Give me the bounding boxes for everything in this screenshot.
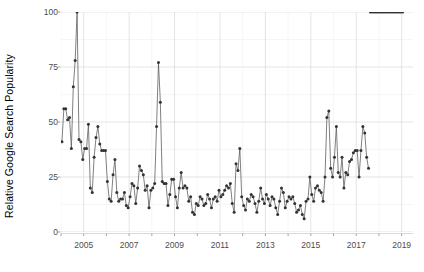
data-point xyxy=(324,176,327,179)
data-point xyxy=(282,191,285,194)
data-point xyxy=(70,147,73,150)
data-point xyxy=(197,204,200,207)
data-point xyxy=(113,158,116,161)
data-point xyxy=(346,173,349,176)
data-point xyxy=(79,140,82,143)
data-point xyxy=(272,198,275,201)
data-point xyxy=(312,200,315,203)
data-point xyxy=(257,200,260,203)
data-point xyxy=(165,182,168,185)
data-point xyxy=(235,162,238,165)
data-point xyxy=(140,169,143,172)
x-tick-label: 2017 xyxy=(347,241,366,250)
data-point xyxy=(127,206,130,209)
data-point xyxy=(87,123,90,126)
data-point xyxy=(308,176,311,179)
data-point xyxy=(189,195,192,198)
major-gridlines xyxy=(61,12,413,232)
data-point xyxy=(339,176,342,179)
data-point xyxy=(180,171,183,174)
data-point xyxy=(91,191,94,194)
x-tick-label: 2007 xyxy=(120,241,139,250)
x-tick-label: 2019 xyxy=(392,241,411,250)
data-point xyxy=(252,195,255,198)
data-point xyxy=(306,198,309,201)
data-point xyxy=(210,206,213,209)
data-point xyxy=(68,116,71,119)
data-point xyxy=(159,101,162,104)
data-point xyxy=(350,158,353,161)
chart-figure: Relative Google Search Popularity 025507… xyxy=(0,0,424,272)
series-line xyxy=(62,12,369,219)
data-point xyxy=(72,85,75,88)
data-point xyxy=(325,116,328,119)
data-point xyxy=(153,182,156,185)
line-chart-svg xyxy=(61,12,413,232)
data-point xyxy=(104,149,107,152)
data-point xyxy=(142,173,145,176)
data-point xyxy=(293,202,296,205)
data-point xyxy=(259,187,262,190)
data-point xyxy=(286,200,289,203)
data-point xyxy=(168,193,171,196)
data-point xyxy=(185,187,188,190)
data-point xyxy=(297,209,300,212)
data-point xyxy=(110,200,113,203)
data-point xyxy=(244,209,247,212)
data-point xyxy=(269,204,272,207)
data-point xyxy=(342,187,345,190)
data-point xyxy=(337,171,340,174)
data-point xyxy=(76,12,79,14)
data-point xyxy=(129,195,132,198)
data-point xyxy=(341,156,344,159)
data-point xyxy=(89,187,92,190)
data-point xyxy=(238,147,241,150)
data-point xyxy=(157,61,160,64)
data-point xyxy=(231,202,234,205)
data-point xyxy=(204,202,207,205)
data-point xyxy=(81,158,84,161)
data-point xyxy=(327,110,330,113)
data-point xyxy=(240,195,243,198)
data-point xyxy=(221,193,224,196)
data-point xyxy=(322,200,325,203)
data-point xyxy=(144,189,147,192)
data-point xyxy=(95,136,98,139)
data-point xyxy=(166,204,169,207)
data-point xyxy=(320,191,323,194)
data-point xyxy=(214,195,217,198)
data-point xyxy=(267,198,270,201)
data-point xyxy=(229,182,232,185)
data-series-layer xyxy=(61,12,404,220)
data-point xyxy=(365,156,368,159)
data-point xyxy=(329,167,332,170)
data-point xyxy=(299,204,302,207)
data-point xyxy=(333,156,336,159)
data-point xyxy=(278,200,281,203)
data-point xyxy=(138,165,141,168)
data-point xyxy=(236,169,239,172)
data-point xyxy=(155,125,158,128)
data-point xyxy=(223,189,226,192)
data-point xyxy=(248,200,251,203)
x-tick-label: 2013 xyxy=(256,241,275,250)
data-point xyxy=(358,176,361,179)
data-point xyxy=(106,180,109,183)
data-point xyxy=(310,193,313,196)
data-point xyxy=(64,107,67,110)
data-point xyxy=(227,187,230,190)
data-point xyxy=(96,125,99,128)
data-point xyxy=(174,195,177,198)
data-point xyxy=(136,187,139,190)
data-point xyxy=(363,132,366,135)
data-point xyxy=(331,176,334,179)
data-point xyxy=(176,206,179,209)
data-point xyxy=(253,202,256,205)
data-point xyxy=(193,213,196,216)
data-point xyxy=(85,147,88,150)
data-point xyxy=(74,59,77,62)
data-point xyxy=(303,217,306,220)
data-point xyxy=(112,173,115,176)
data-point xyxy=(263,202,266,205)
data-point xyxy=(146,184,149,187)
